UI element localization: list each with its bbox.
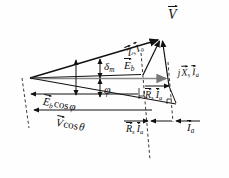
phasor-diagram-figure: V ZsIa Eb jXsIa δm φ Ebcosφ Vcosθ RsIa R…: [0, 0, 229, 178]
label-V: V: [168, 8, 177, 22]
label-RsIa-lower: RsIa: [126, 124, 143, 135]
label-jXsIa: jXsIa: [177, 67, 199, 80]
label-RsIa-upper: RsIa: [145, 90, 162, 101]
right-angle-mark-1: [139, 91, 144, 96]
label-delta-m: δm: [104, 61, 114, 74]
lower-right-connector: [169, 86, 176, 103]
phasor-ZsIa-vector: [143, 41, 160, 75]
dashed-construction-line-2: [168, 62, 173, 122]
phasor-diagram-canvas: [0, 0, 229, 178]
dashed-construction-line-left: [22, 78, 29, 128]
label-Ia: Ia: [187, 122, 194, 135]
label-phi: φ: [104, 84, 111, 96]
phasor-Eb-vector: [30, 75, 141, 79]
label-Eb: Eb: [124, 60, 134, 73]
